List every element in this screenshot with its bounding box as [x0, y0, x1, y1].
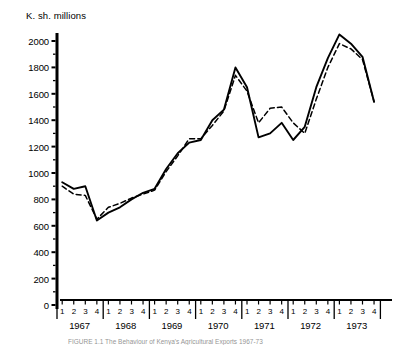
chart-container: K. sh. millions 020040060080010001200140…: [0, 0, 410, 348]
chart-plot-area: [0, 0, 410, 348]
solid-series: [62, 34, 374, 220]
chart-axes: [52, 33, 393, 319]
figure-caption: FIGURE 1.1 The Behaviour of Kenya's Agri…: [68, 338, 398, 345]
chart-series: [62, 34, 374, 220]
dashed-series: [62, 44, 374, 220]
